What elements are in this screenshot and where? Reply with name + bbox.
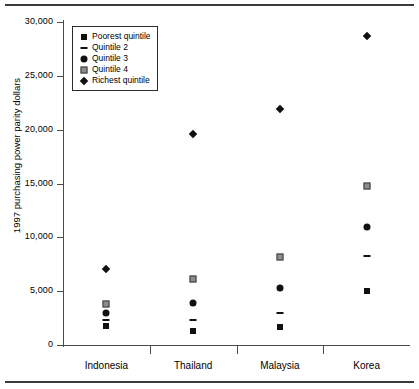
legend-marker-glyph (81, 34, 87, 40)
x-axis-category-label: Malaysia (235, 360, 325, 371)
data-point (103, 301, 110, 308)
data-point (276, 284, 283, 291)
legend-item-label: Quintile 4 (92, 65, 128, 74)
x-axis-category-label: Korea (322, 360, 412, 371)
legend-item-label: Poorest quintile (92, 32, 151, 41)
data-point (363, 255, 370, 257)
y-tick-label: 5,000 (0, 286, 53, 295)
data-point (363, 182, 370, 189)
data-point (362, 32, 370, 40)
legend-item: Quintile 3 (78, 53, 151, 64)
data-point (190, 300, 197, 307)
data-point (189, 130, 197, 138)
legend-marker-glyph (80, 47, 87, 49)
data-point (103, 323, 109, 329)
y-tick-label: 25,000 (0, 71, 53, 80)
y-tick-mark (57, 345, 63, 346)
legend-marker-icon (78, 31, 89, 42)
data-point (363, 223, 370, 230)
legend-item-label: Richest quintile (92, 76, 150, 85)
y-tick-label: 20,000 (0, 125, 53, 134)
legend-marker-glyph (79, 76, 87, 84)
data-point (277, 324, 283, 330)
legend-marker-glyph (80, 66, 87, 73)
y-tick-label: 0 (0, 340, 53, 349)
y-tick-label: 15,000 (0, 179, 53, 188)
legend-marker-glyph (80, 55, 87, 62)
data-point (276, 253, 283, 260)
legend-marker-icon (78, 75, 89, 86)
data-point (276, 105, 284, 113)
data-point (103, 309, 110, 316)
top-divider-rule (5, 4, 414, 6)
x-tick-mark (150, 346, 151, 354)
data-point (364, 288, 370, 294)
legend-item-label: Quintile 2 (92, 43, 128, 52)
legend-marker-icon (78, 64, 89, 75)
data-point (190, 319, 197, 321)
legend-item: Poorest quintile (78, 31, 151, 42)
data-point (103, 319, 110, 321)
x-axis-category-label: Indonesia (61, 360, 151, 371)
legend-marker-icon (78, 42, 89, 53)
x-tick-mark (323, 346, 324, 354)
data-point (276, 312, 283, 314)
data-point (102, 264, 110, 272)
legend-marker-icon (78, 53, 89, 64)
legend-item-label: Quintile 3 (92, 54, 128, 63)
y-tick-label: 10,000 (0, 232, 53, 241)
data-point (190, 276, 197, 283)
data-point (190, 328, 196, 334)
legend-item: Richest quintile (78, 75, 151, 86)
x-axis-category-label: Thailand (148, 360, 238, 371)
legend-item: Quintile 4 (78, 64, 151, 75)
x-tick-mark (237, 346, 238, 354)
bottom-divider-rule (5, 381, 414, 383)
legend-item: Quintile 2 (78, 42, 151, 53)
y-axis-title-label: 1997 purchasing power parity dollars (11, 56, 22, 256)
y-tick-label: 30,000 (0, 17, 53, 26)
chart-legend: Poorest quintileQuintile 2Quintile 3Quin… (72, 26, 158, 91)
